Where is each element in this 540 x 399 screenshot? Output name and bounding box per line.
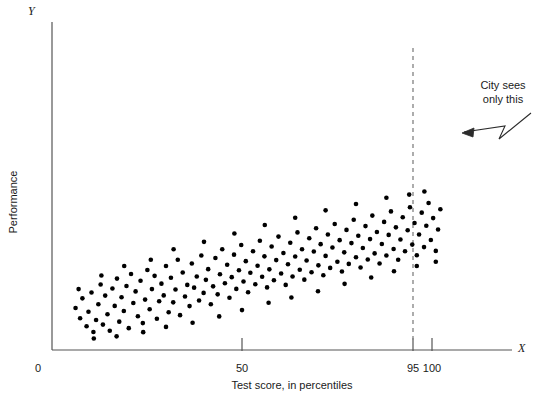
y-axis-title: Performance (7, 162, 19, 242)
data-point (211, 284, 216, 289)
data-point (349, 241, 354, 246)
data-point (356, 233, 361, 238)
axes-group (52, 22, 512, 350)
annotation-line-2: only this (470, 92, 536, 106)
data-point (302, 277, 307, 282)
plot-canvas (0, 0, 540, 399)
data-point (326, 232, 331, 237)
x-axis-title: Test score, in percentiles (231, 379, 352, 391)
data-point (157, 299, 162, 304)
data-point (382, 220, 387, 225)
annotation-city-sees-only-this: City sees only this (470, 78, 536, 106)
data-point (412, 221, 417, 226)
data-point (229, 275, 234, 280)
data-point (288, 240, 293, 245)
data-point (342, 250, 347, 255)
data-point (260, 274, 265, 279)
data-point (372, 251, 377, 256)
data-point (237, 268, 242, 273)
data-point (389, 209, 394, 214)
data-point (169, 275, 174, 280)
data-point (164, 325, 169, 330)
data-point (307, 236, 312, 241)
data-point (405, 228, 410, 233)
data-point (96, 302, 101, 307)
data-point (386, 233, 391, 238)
data-point (394, 225, 399, 230)
data-point (105, 312, 110, 317)
data-point (122, 264, 127, 269)
data-point (218, 272, 223, 277)
data-point (155, 316, 160, 321)
data-point (384, 253, 389, 258)
annotation-line-1: City sees (470, 78, 536, 92)
data-point (369, 275, 374, 280)
data-point (159, 281, 164, 286)
x-tick-label-50: 50 (236, 362, 248, 374)
data-point (263, 223, 268, 228)
data-point (110, 286, 115, 291)
data-point (410, 242, 415, 247)
data-point (415, 264, 420, 269)
data-point (183, 294, 188, 299)
data-point (328, 266, 333, 271)
data-point (396, 257, 401, 262)
data-point (300, 247, 305, 252)
data-point (98, 282, 103, 287)
data-point (314, 226, 319, 231)
data-point (392, 269, 397, 274)
data-point (124, 284, 129, 289)
data-point (89, 290, 94, 295)
data-point (434, 249, 439, 254)
data-point (340, 269, 345, 274)
data-point (94, 318, 99, 323)
data-point (84, 324, 89, 329)
data-point (358, 265, 363, 270)
data-point (309, 270, 314, 275)
data-point (149, 257, 154, 262)
data-point (361, 246, 366, 251)
data-point (92, 336, 97, 341)
data-point (323, 208, 328, 213)
data-point (351, 218, 356, 223)
data-point (316, 263, 321, 268)
data-point (251, 249, 256, 254)
data-point (304, 258, 309, 263)
data-point (190, 261, 195, 266)
data-point (129, 272, 134, 277)
data-point (426, 201, 431, 206)
data-point (150, 287, 155, 292)
data-point (239, 243, 244, 248)
y-axis-symbol: Y (28, 4, 35, 19)
data-point (122, 309, 127, 314)
data-point (335, 260, 340, 265)
data-point (384, 195, 389, 200)
data-point (91, 330, 96, 335)
data-point (232, 231, 237, 236)
data-point (293, 215, 298, 220)
data-point (240, 308, 245, 313)
data-point (323, 254, 328, 259)
data-point (346, 262, 351, 267)
data-points-group (73, 189, 442, 341)
data-point (368, 237, 373, 242)
data-point (86, 309, 91, 314)
data-point (279, 271, 284, 276)
data-point (417, 232, 422, 237)
x-tick-marks (242, 338, 432, 351)
data-point (248, 270, 253, 275)
data-point (209, 302, 214, 307)
origin-label: 0 (35, 362, 41, 374)
data-point (265, 285, 270, 290)
data-point (202, 240, 207, 245)
data-point (286, 262, 291, 267)
data-point (400, 215, 405, 220)
scatter-plot-figure: Y X 0 Test score, in percentiles Perform… (0, 0, 540, 399)
data-point (76, 287, 81, 292)
data-point (103, 293, 108, 298)
data-point (342, 282, 347, 287)
data-point (431, 216, 436, 221)
data-point (234, 287, 239, 292)
data-point (197, 298, 202, 303)
x-axis-symbol: X (518, 341, 525, 356)
